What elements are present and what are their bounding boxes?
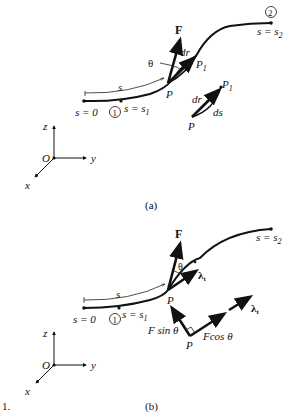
- arc-length-label: s: [118, 81, 122, 93]
- tangential-component-label: Fcos θ: [202, 330, 233, 342]
- inset-p1-label: P1: [221, 78, 233, 93]
- theta-arc: [173, 66, 181, 70]
- y-axis-label-b: y: [90, 359, 96, 371]
- caption-b: (b): [145, 400, 158, 413]
- start-label: s = 0: [75, 106, 98, 118]
- point1-label: s = s1: [124, 102, 149, 117]
- theta-label: θ: [148, 57, 153, 69]
- point2-marker: 2: [268, 8, 273, 18]
- point-p1-label: P1: [195, 58, 207, 73]
- start-point-dot-b: [82, 306, 86, 310]
- work-along-path-figure: s F dr θ P P1 s = 0 1 s = s1 2 s = s2 dr…: [0, 0, 287, 414]
- inset-dr-label: dr: [192, 93, 203, 105]
- decomp-p-label: P: [185, 339, 193, 351]
- theta-label-b: θ: [178, 261, 183, 272]
- point1-dot-b: [117, 306, 120, 309]
- point-p-label: P: [165, 88, 173, 100]
- x-axis-label-b: x: [24, 385, 30, 397]
- force-label-b: F: [175, 227, 182, 241]
- force-decomposition: λt F sin θ Fcos θ P: [147, 297, 259, 351]
- arc-length-label-b: s: [116, 288, 120, 300]
- point1-marker: 1: [113, 108, 118, 118]
- decomp-tangent-label: λt: [251, 302, 259, 316]
- panel-a: s F dr θ P P1 s = 0 1 s = s1 2 s = s2 dr…: [24, 7, 282, 213]
- dr-label: dr: [180, 46, 191, 58]
- point-p-label-b: P: [166, 294, 174, 306]
- inset-dr-ds: dr ds P P1: [187, 78, 233, 132]
- decomp-tangent-vector: [229, 297, 250, 310]
- point2-label-b: s = s2: [256, 231, 281, 246]
- panel-b: s F λt θ P s = 0 1 s = s1 s = s2 λt F si…: [2, 227, 281, 413]
- y-axis-label: y: [90, 152, 96, 164]
- z-axis-label: z: [42, 120, 48, 132]
- point1-dot: [119, 99, 122, 102]
- inset-p-label: P: [187, 120, 195, 132]
- curve-midpoint-dot-b: [194, 261, 197, 264]
- tangent-label-b: λt: [198, 269, 206, 283]
- start-point-dot: [82, 99, 86, 103]
- start-label-b: s = 0: [73, 313, 96, 325]
- inset-ds-label: ds: [213, 106, 223, 118]
- origin-dot-b: [52, 363, 55, 366]
- point2-label: s = s2: [257, 25, 282, 40]
- point1-marker-b: 1: [113, 315, 118, 325]
- axes-a: z y x O: [24, 120, 96, 191]
- x-axis-label: x: [24, 179, 30, 191]
- origin-dot: [52, 156, 55, 159]
- point1-label-b: s = s1: [122, 308, 147, 323]
- figure-number: 1.: [2, 400, 11, 412]
- axes-b: z y x O: [24, 327, 96, 397]
- origin-label: O: [42, 152, 50, 164]
- z-axis-label-b: z: [42, 327, 48, 339]
- caption-a: (a): [145, 199, 158, 212]
- normal-component-label: F sin θ: [147, 324, 179, 336]
- origin-label-b: O: [42, 359, 50, 371]
- force-label: F: [175, 23, 182, 37]
